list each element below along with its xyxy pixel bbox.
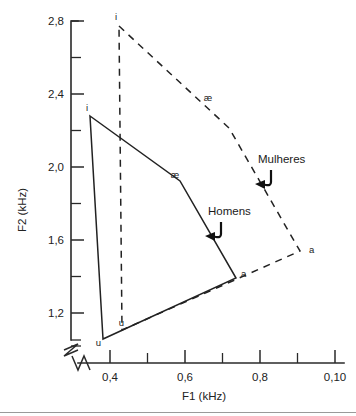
vowel-label-u-mulheres: u	[119, 317, 124, 328]
mulheres-polygon[interactable]	[119, 26, 300, 330]
y-tick-label: 1,6	[48, 234, 64, 246]
annotation-mulheres: Mulheres	[255, 153, 306, 189]
y-tick-label: 1,2	[48, 307, 64, 319]
y-axis: 2,8 2,4 2,0 1,6 1,2 F2 (kHz)	[16, 15, 84, 356]
vowel-label-i-mulheres: i	[115, 11, 117, 22]
series-mulheres[interactable]: i æ a u	[115, 11, 315, 330]
annotation-homens: Homens	[205, 205, 251, 241]
vowel-label-i-homens: i	[86, 102, 88, 113]
annotation-label-mulheres: Mulheres	[258, 153, 306, 165]
x-axis-break-icon	[72, 356, 90, 370]
y-tick-label: 2,4	[48, 88, 65, 100]
vowel-label-a-homens: a	[241, 268, 247, 279]
annotation-label-homens: Homens	[208, 205, 251, 217]
vowel-label-a-mulheres: a	[309, 244, 315, 255]
series-homens[interactable]: i æ a u	[86, 102, 247, 348]
x-axis: 0,4 0,6 0,8 0,10 F1 (kHz)	[72, 350, 346, 402]
x-tick-label: 0,4	[102, 371, 119, 383]
y-tick-label: 2,0	[48, 161, 64, 173]
x-tick-label: 0,10	[324, 371, 346, 383]
y-tick-label: 2,8	[48, 15, 64, 27]
homens-polygon[interactable]	[90, 116, 236, 339]
footer-divider	[0, 412, 356, 413]
x-tick-label: 0,8	[252, 371, 268, 383]
y-axis-title: F2 (kHz)	[16, 188, 28, 232]
vowel-label-ae-homens: æ	[171, 169, 180, 180]
formant-plot-svg: 2,8 2,4 2,0 1,6 1,2 F2 (kHz) 0,4 0,6	[0, 0, 356, 416]
x-axis-title: F1 (kHz)	[182, 390, 226, 402]
x-tick-label: 0,6	[177, 371, 193, 383]
vowel-label-u-homens: u	[96, 337, 101, 348]
vowel-label-ae-mulheres: æ	[204, 92, 213, 103]
vowel-formant-figure: 2,8 2,4 2,0 1,6 1,2 F2 (kHz) 0,4 0,6	[0, 0, 356, 416]
y-axis-line	[71, 21, 78, 340]
